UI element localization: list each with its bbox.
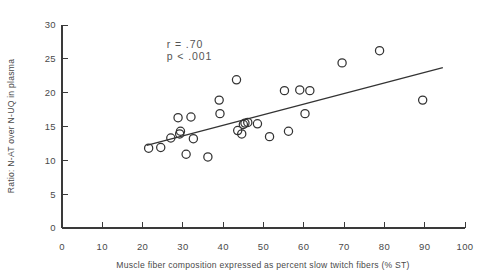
data-point	[375, 47, 383, 55]
x-axis-ticks: 0102030405060708090100	[59, 222, 473, 252]
data-point	[182, 150, 190, 158]
data-point	[232, 76, 240, 84]
data-point	[215, 96, 223, 104]
data-point	[204, 153, 212, 161]
annotation-label: r = .70	[167, 38, 203, 50]
x-tick-label: 90	[419, 241, 430, 252]
data-point	[265, 133, 273, 141]
y-tick-label: 20	[45, 87, 56, 98]
data-point	[189, 135, 197, 143]
y-axis-title: Ratio: N-AT over N-UQ in plasma	[6, 59, 16, 193]
y-tick-label: 15	[45, 121, 56, 132]
x-tick-label: 100	[456, 241, 473, 252]
data-point	[306, 87, 314, 95]
y-tick-label: 0	[50, 222, 56, 233]
data-point	[216, 110, 224, 118]
data-point	[253, 120, 261, 128]
y-axis-ticks: 051015202530	[45, 19, 68, 233]
data-point	[301, 110, 309, 118]
x-tick-label: 70	[338, 241, 349, 252]
x-tick-label: 50	[258, 241, 269, 252]
x-tick-label: 20	[137, 241, 148, 252]
x-tick-label: 60	[298, 241, 309, 252]
x-tick-label: 10	[97, 241, 108, 252]
y-tick-label: 10	[45, 155, 56, 166]
data-point	[338, 59, 346, 67]
x-axis-title: Muscle fiber composition expressed as pe…	[116, 260, 409, 270]
annotation-label: p < .001	[167, 50, 212, 62]
data-point	[284, 127, 292, 135]
data-point	[419, 96, 427, 104]
data-point	[296, 86, 304, 94]
y-tick-label: 30	[45, 19, 56, 30]
y-tick-label: 25	[45, 53, 56, 64]
statistics-annotations: r = .70p < .001	[167, 38, 212, 62]
y-tick-label: 5	[50, 189, 56, 200]
data-points-group	[145, 47, 427, 161]
x-tick-label: 30	[177, 241, 188, 252]
data-point	[157, 143, 165, 151]
axes-group	[62, 25, 465, 228]
data-point	[174, 114, 182, 122]
plot-canvas: 051015202530 0102030405060708090100 r = …	[0, 0, 490, 274]
data-point	[187, 113, 195, 121]
data-point	[280, 87, 288, 95]
regression-line	[147, 68, 443, 146]
x-tick-label: 0	[59, 241, 65, 252]
regression-line-group	[147, 68, 443, 146]
x-tick-label: 40	[218, 241, 229, 252]
x-tick-label: 80	[379, 241, 390, 252]
scatter-plot-figure: 051015202530 0102030405060708090100 r = …	[0, 0, 490, 274]
